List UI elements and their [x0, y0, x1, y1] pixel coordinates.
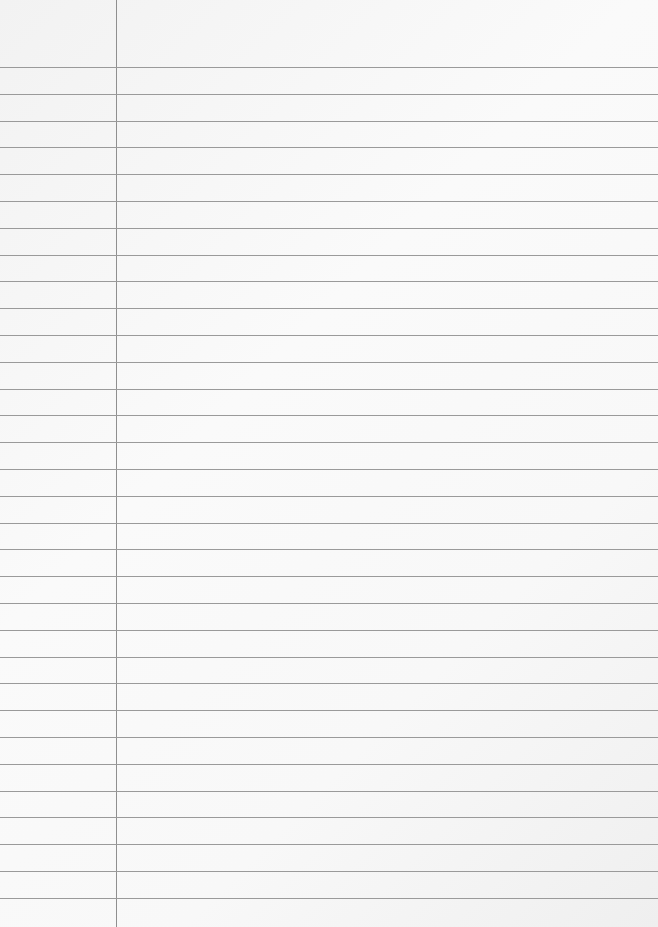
ruled-line: [0, 281, 658, 282]
ruled-line: [0, 362, 658, 363]
ruled-line: [0, 657, 658, 658]
ruled-line: [0, 335, 658, 336]
ruled-line: [0, 844, 658, 845]
ruled-line: [0, 764, 658, 765]
ruled-line: [0, 523, 658, 524]
ruled-line: [0, 791, 658, 792]
ruled-line: [0, 737, 658, 738]
ruled-line: [0, 121, 658, 122]
ruled-line: [0, 549, 658, 550]
ruled-line: [0, 442, 658, 443]
lined-paper: [0, 0, 658, 927]
ruled-line: [0, 576, 658, 577]
ruled-line: [0, 201, 658, 202]
ruled-line: [0, 603, 658, 604]
ruled-line: [0, 147, 658, 148]
ruled-line: [0, 898, 658, 899]
ruled-line: [0, 389, 658, 390]
ruled-line: [0, 496, 658, 497]
ruled-line: [0, 683, 658, 684]
margin-line: [116, 0, 117, 927]
ruled-line: [0, 415, 658, 416]
ruled-line: [0, 94, 658, 95]
ruled-line: [0, 871, 658, 872]
ruled-line: [0, 67, 658, 68]
ruled-line: [0, 308, 658, 309]
ruled-line: [0, 469, 658, 470]
ruled-line: [0, 630, 658, 631]
ruled-line: [0, 710, 658, 711]
ruled-line: [0, 228, 658, 229]
ruled-line: [0, 817, 658, 818]
ruled-line: [0, 255, 658, 256]
ruled-line: [0, 174, 658, 175]
